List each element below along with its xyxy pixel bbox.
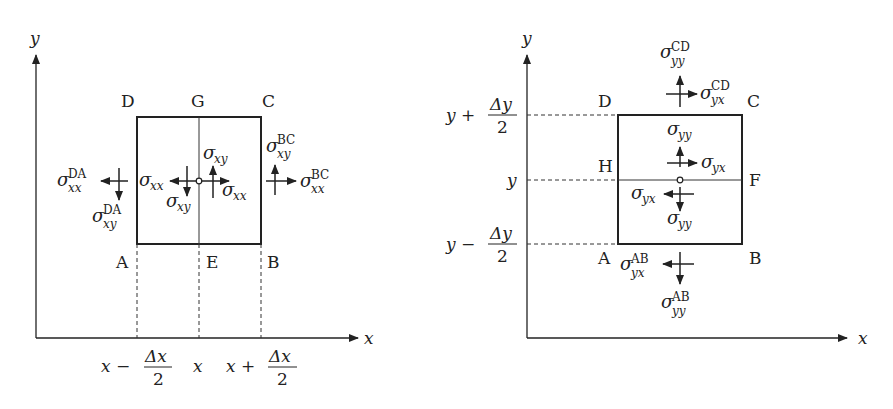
svg-text:yx: yx [641,192,656,206]
svg-text:yx: yx [710,93,725,107]
stress-label-inner-top-yy: σ yy [667,118,692,142]
svg-text:BC: BC [277,133,295,147]
stress-label-ab-yy: σ yy AB [661,290,690,318]
svg-text:xy: xy [277,147,291,161]
tick-x: x [193,356,203,376]
midpoint-h: H [598,156,613,176]
svg-text:DA: DA [68,167,87,181]
svg-text:y −: y − [445,234,475,254]
svg-text:Δy: Δy [489,94,512,114]
left-diagram: y x D G C A E B σ xx DA σ xy DA [29,28,374,389]
svg-text:xy: xy [103,217,117,231]
y-axis-label: y [521,28,532,48]
midpoint-e: E [206,252,218,272]
corner-a: A [115,252,129,272]
tick-y-plus-half-dy: y + Δy 2 [445,94,517,137]
svg-text:xx: xx [311,182,325,196]
stress-diagrams: y x D G C A E B σ xx DA σ xy DA [0,0,893,409]
corner-a: A [597,248,611,268]
tick-x-minus-half-dx: x − Δx 2 [101,346,172,389]
stress-label-inner-bottom-yx: σ yx [631,182,656,206]
right-diagram: y x D C H F A B σ yy CD σ yx CD [445,28,868,348]
tick-x-plus-half-dx: x + Δx 2 [226,346,297,389]
svg-text:AB: AB [671,290,690,304]
stress-label-cd-yy: σ yy CD [660,40,690,68]
tick-y-minus-half-dy: y − Δy 2 [445,223,517,266]
svg-text:BC: BC [311,168,329,182]
svg-text:yx: yx [630,266,645,280]
svg-text:2: 2 [497,246,508,266]
svg-text:DA: DA [103,203,122,217]
stress-label-da-xy: σ xy DA [92,203,122,231]
svg-text:x +: x + [226,356,255,376]
svg-text:xy: xy [214,152,228,166]
svg-text:2: 2 [153,369,164,389]
svg-text:xx: xx [150,179,164,193]
svg-text:xy: xy [177,200,191,214]
x-axis-label: x [858,328,868,348]
y-axis-label: y [29,28,40,48]
x-axis-label: x [364,328,374,348]
stress-label-bc-xy: σ xy BC [266,133,295,161]
center-point [196,178,202,184]
svg-text:Δx: Δx [268,346,291,366]
svg-text:CD: CD [671,40,690,54]
stress-label-cd-yx: σ yx CD [700,79,730,107]
svg-text:Δy: Δy [489,223,512,243]
svg-text:xx: xx [68,181,82,195]
svg-text:2: 2 [497,117,508,137]
tick-y: y [506,170,517,190]
corner-b: B [749,248,762,268]
stress-label-inner-left-xx: σ xx [139,169,164,193]
svg-text:CD: CD [711,79,730,93]
corner-b: B [267,252,280,272]
svg-text:yy: yy [670,54,685,68]
corner-d: D [598,91,612,111]
svg-text:yy: yy [677,128,692,142]
corner-c: C [747,91,760,111]
stress-label-inner-top-yx: σ yx [701,151,726,175]
svg-text:yy: yy [677,217,692,231]
svg-text:yy: yy [671,304,686,318]
stress-label-inner-right-xx: σ xx [222,179,247,203]
svg-text:AB: AB [630,252,649,266]
stress-label-bc-xx: σ xx BC [300,168,329,196]
corner-c: C [262,91,275,111]
svg-text:2: 2 [277,369,288,389]
stress-label-ab-yx: σ yx AB [620,252,649,280]
svg-text:y +: y + [445,105,475,125]
stress-label-da-xx: σ xx DA [57,167,87,195]
midpoint-g: G [191,91,205,111]
svg-text:x −: x − [101,356,130,376]
stress-label-inner-right-xy: σ xy [203,142,228,166]
svg-text:Δx: Δx [144,346,167,366]
center-point [677,177,683,183]
midpoint-f: F [749,170,761,190]
svg-text:yx: yx [711,161,726,175]
corner-d: D [121,91,135,111]
svg-text:xx: xx [233,189,247,203]
